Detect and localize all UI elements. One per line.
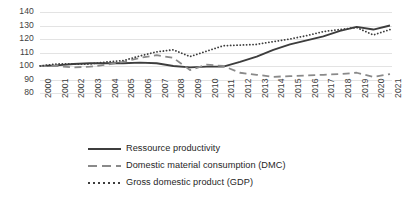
series-line-solid <box>40 26 390 68</box>
plot-area <box>0 0 402 201</box>
legend-swatch-solid-icon <box>88 148 121 150</box>
legend-label: Gross domestic product (GDP) <box>126 177 253 187</box>
series-line-dotted <box>40 28 390 66</box>
legend-swatch-dotted-icon <box>88 182 121 184</box>
legend-swatch-dashed-icon <box>88 165 121 167</box>
legend-label: Domestic material consumption (DMC) <box>126 160 286 170</box>
resource-productivity-line-chart: 8090100110120130140 20002001200220032004… <box>0 0 402 201</box>
legend-label: Ressource productivity <box>126 143 220 153</box>
